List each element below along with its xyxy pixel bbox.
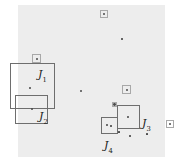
label-j2: J2 xyxy=(39,111,48,125)
point-upper-left-box xyxy=(36,58,38,60)
point-j3-corner xyxy=(113,103,116,106)
point-lower-left-j4 xyxy=(118,131,119,132)
label-j3-subscript: 3 xyxy=(146,125,150,133)
point-mid-right-box xyxy=(126,89,128,91)
point-in-j2 xyxy=(31,108,33,110)
point-in-j1 xyxy=(29,87,31,89)
point-j4-b xyxy=(110,125,112,127)
point-upper-mid xyxy=(121,38,122,39)
label-j4: J4 xyxy=(104,140,113,154)
point-in-j3 xyxy=(127,116,129,118)
label-j1-subscript: 1 xyxy=(42,76,46,84)
label-j3: J3 xyxy=(142,118,151,132)
point-j4-a xyxy=(106,124,108,126)
label-j4-subscript: 4 xyxy=(108,147,112,155)
point-far-right-box xyxy=(169,123,171,125)
point-below-j3 xyxy=(129,135,130,136)
point-lower-mid xyxy=(146,133,147,134)
label-j2-subscript: 2 xyxy=(43,118,47,126)
label-j1: J1 xyxy=(38,69,47,83)
figure-root: J1J2J3J4 xyxy=(0,0,180,167)
